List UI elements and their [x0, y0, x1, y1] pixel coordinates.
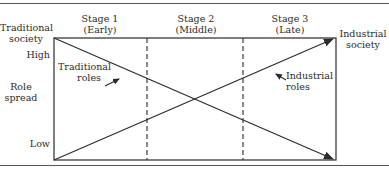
stage-3-header: Stage 3 (Late) — [262, 13, 318, 35]
y-axis-low: Low — [22, 138, 50, 149]
traditional-roles-line — [54, 38, 333, 159]
stage-2-label: Stage 2 — [167, 13, 225, 24]
stage-2-header: Stage 2 (Middle) — [167, 13, 225, 35]
industrial-roles-line1: Industrial — [286, 70, 332, 81]
traditional-roles-pointer — [105, 79, 119, 86]
industrial-roles-line2: roles — [286, 81, 332, 92]
traditional-society-line1: Traditional — [0, 22, 52, 33]
stage-3-sub: (Late) — [262, 24, 318, 35]
industrial-society-line2: society — [338, 39, 388, 50]
industrial-roles-pointer — [276, 74, 286, 80]
traditional-society-label: Traditional society — [0, 22, 52, 44]
y-axis-title: Role spread — [4, 81, 38, 103]
industrial-roles-line — [54, 39, 333, 160]
industrial-society-label: Industrial society — [338, 28, 388, 50]
stage-1-label: Stage 1 — [72, 13, 128, 24]
traditional-roles-line1: Traditional — [58, 61, 106, 72]
traditional-society-line2: society — [0, 33, 52, 44]
traditional-roles-line2: roles — [58, 72, 106, 83]
y-axis-title-line2: spread — [4, 92, 38, 103]
stage-1-header: Stage 1 (Early) — [72, 13, 128, 35]
stage-1-sub: (Early) — [72, 24, 128, 35]
stage-2-sub: (Middle) — [167, 24, 225, 35]
industrial-roles-label: Industrial roles — [286, 70, 332, 92]
traditional-roles-label: Traditional roles — [58, 61, 106, 83]
y-axis-title-line1: Role — [4, 81, 38, 92]
y-axis-high: High — [22, 49, 50, 60]
stage-3-label: Stage 3 — [262, 13, 318, 24]
industrial-society-line1: Industrial — [338, 28, 388, 39]
